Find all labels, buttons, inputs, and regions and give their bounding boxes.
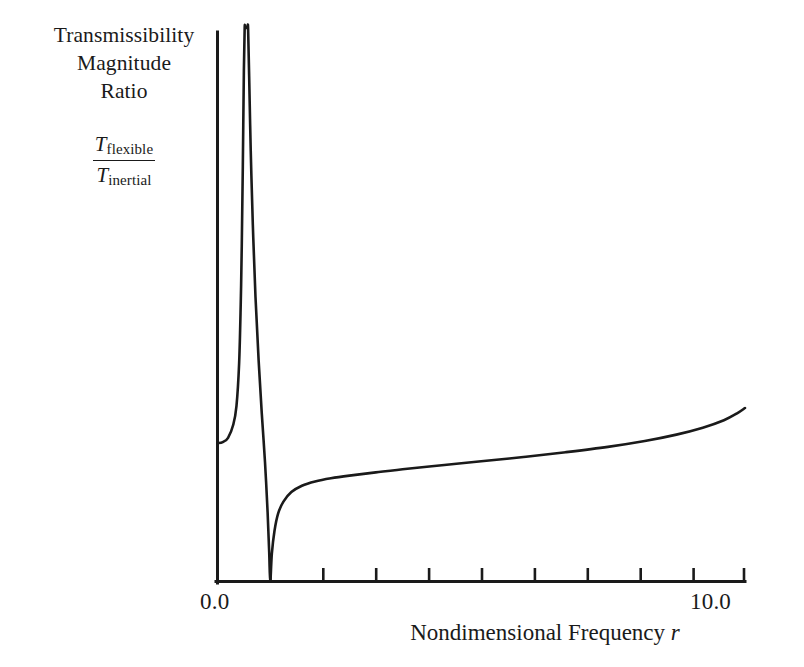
x-axis-title-variable: r xyxy=(671,620,680,645)
plot-area xyxy=(0,0,804,667)
x-axis-ticks xyxy=(270,568,744,581)
x-axis-max-label: 10.0 xyxy=(690,589,731,615)
transmissibility-curve xyxy=(218,24,746,581)
transmissibility-ratio-figure: Transmissibility Magnitude Ratio Tflexib… xyxy=(0,0,804,667)
x-axis-title: Nondimensional Frequency r xyxy=(330,620,760,646)
x-axis-min-label: 0.0 xyxy=(200,589,229,615)
x-axis-title-text: Nondimensional Frequency xyxy=(410,620,665,645)
